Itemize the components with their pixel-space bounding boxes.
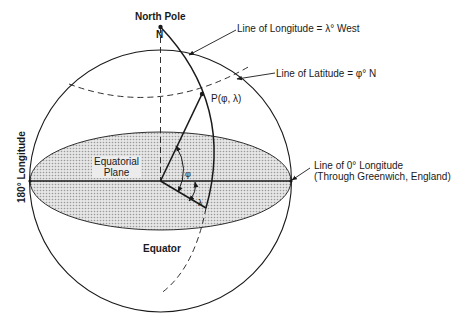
longitude-line-label: Line of Longitude = λ° West — [237, 23, 360, 34]
lambda-label: λ — [198, 198, 203, 209]
equator-label: Equator — [143, 243, 181, 254]
equatorial-plane-label-line1: Equatorial — [94, 156, 139, 167]
north-pole-label: North Pole — [135, 11, 186, 22]
phi-label: φ — [185, 169, 191, 180]
n-label: N — [156, 29, 163, 40]
equatorial-plane-label-line2: Plane — [94, 167, 139, 178]
left-equator-point — [28, 179, 31, 182]
equatorial-plane-label: Equatorial Plane — [92, 156, 141, 178]
prime-meridian-label: Line of 0° Longitude (Through Greenwich,… — [314, 160, 451, 182]
prime-meridian-leader — [292, 168, 310, 180]
antimeridian-label: 180° Longitude — [16, 131, 27, 203]
prime-meridian-label-line1: Line of 0° Longitude — [314, 160, 451, 171]
point-p-label: P(φ, λ) — [211, 93, 241, 104]
longitude-leader — [189, 30, 236, 55]
point-p — [200, 92, 204, 96]
prime-meridian-label-line2: (Through Greenwich, England) — [314, 171, 451, 182]
latitude-leader — [237, 73, 275, 79]
latitude-line-label: Line of Latitude = φ° N — [276, 68, 376, 79]
